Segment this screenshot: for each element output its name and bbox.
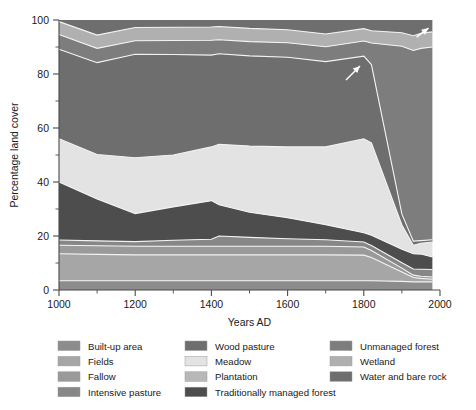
legend-swatch xyxy=(58,356,80,366)
legend-swatch xyxy=(185,356,207,366)
legend-item: Fields xyxy=(58,356,114,367)
legend-item: Wood pasture xyxy=(185,341,275,352)
legend-swatch xyxy=(185,387,207,397)
y-tick-label: 40 xyxy=(37,176,49,188)
legend-item: Built-up area xyxy=(58,341,143,352)
legend-label: Wetland xyxy=(360,356,395,367)
legend-label: Fallow xyxy=(88,371,116,382)
chart-canvas: 100012001400160018002000 020406080100 Ye… xyxy=(0,0,476,410)
y-axis-title: Percentage land cover xyxy=(8,102,20,208)
y-tick-label: 80 xyxy=(37,68,49,80)
x-tick-label: 1000 xyxy=(47,298,71,310)
legend-swatch xyxy=(330,372,352,382)
y-tick-label: 0 xyxy=(43,284,49,296)
x-tick-label: 1400 xyxy=(200,298,224,310)
y-tick-label: 20 xyxy=(37,230,49,242)
x-axis-ticks: 100012001400160018002000 xyxy=(47,290,452,310)
legend-item: Traditionally managed forest xyxy=(185,387,336,398)
legend-item: Unmanaged forest xyxy=(330,341,439,352)
x-tick-label: 2000 xyxy=(428,298,452,310)
legend-swatch xyxy=(330,341,352,351)
legend-item: Meadow xyxy=(185,356,251,367)
legend-label: Intensive pasture xyxy=(88,387,161,398)
y-tick-label: 100 xyxy=(31,14,49,26)
x-tick-label: 1200 xyxy=(124,298,148,310)
legend-label: Wood pasture xyxy=(215,341,275,352)
land-cover-stacked-area-figure: 100012001400160018002000 020406080100 Ye… xyxy=(0,0,476,410)
legend-label: Plantation xyxy=(215,371,258,382)
legend-item: Plantation xyxy=(185,371,258,382)
chart-legend: Built-up areaFieldsFallowIntensive pastu… xyxy=(58,341,447,398)
legend-swatch xyxy=(58,372,80,382)
x-tick-label: 1800 xyxy=(352,298,376,310)
x-tick-label: 1600 xyxy=(276,298,300,310)
legend-label: Meadow xyxy=(215,356,251,367)
legend-item: Intensive pasture xyxy=(58,387,161,398)
legend-label: Built-up area xyxy=(88,341,143,352)
legend-swatch xyxy=(58,387,80,397)
legend-swatch xyxy=(185,341,207,351)
y-tick-label: 60 xyxy=(37,122,49,134)
legend-item: Water and bare rock xyxy=(330,371,447,382)
y-axis-ticks: 020406080100 xyxy=(31,14,59,296)
area-band-built-up-area xyxy=(59,281,432,290)
legend-item: Wetland xyxy=(330,356,395,367)
legend-swatch xyxy=(58,341,80,351)
legend-label: Fields xyxy=(88,356,114,367)
legend-label: Water and bare rock xyxy=(360,371,447,382)
legend-label: Traditionally managed forest xyxy=(215,387,336,398)
x-axis-title: Years AD xyxy=(228,316,272,328)
legend-swatch xyxy=(185,372,207,382)
legend-item: Fallow xyxy=(58,371,116,382)
legend-label: Unmanaged forest xyxy=(360,341,439,352)
legend-swatch xyxy=(330,356,352,366)
